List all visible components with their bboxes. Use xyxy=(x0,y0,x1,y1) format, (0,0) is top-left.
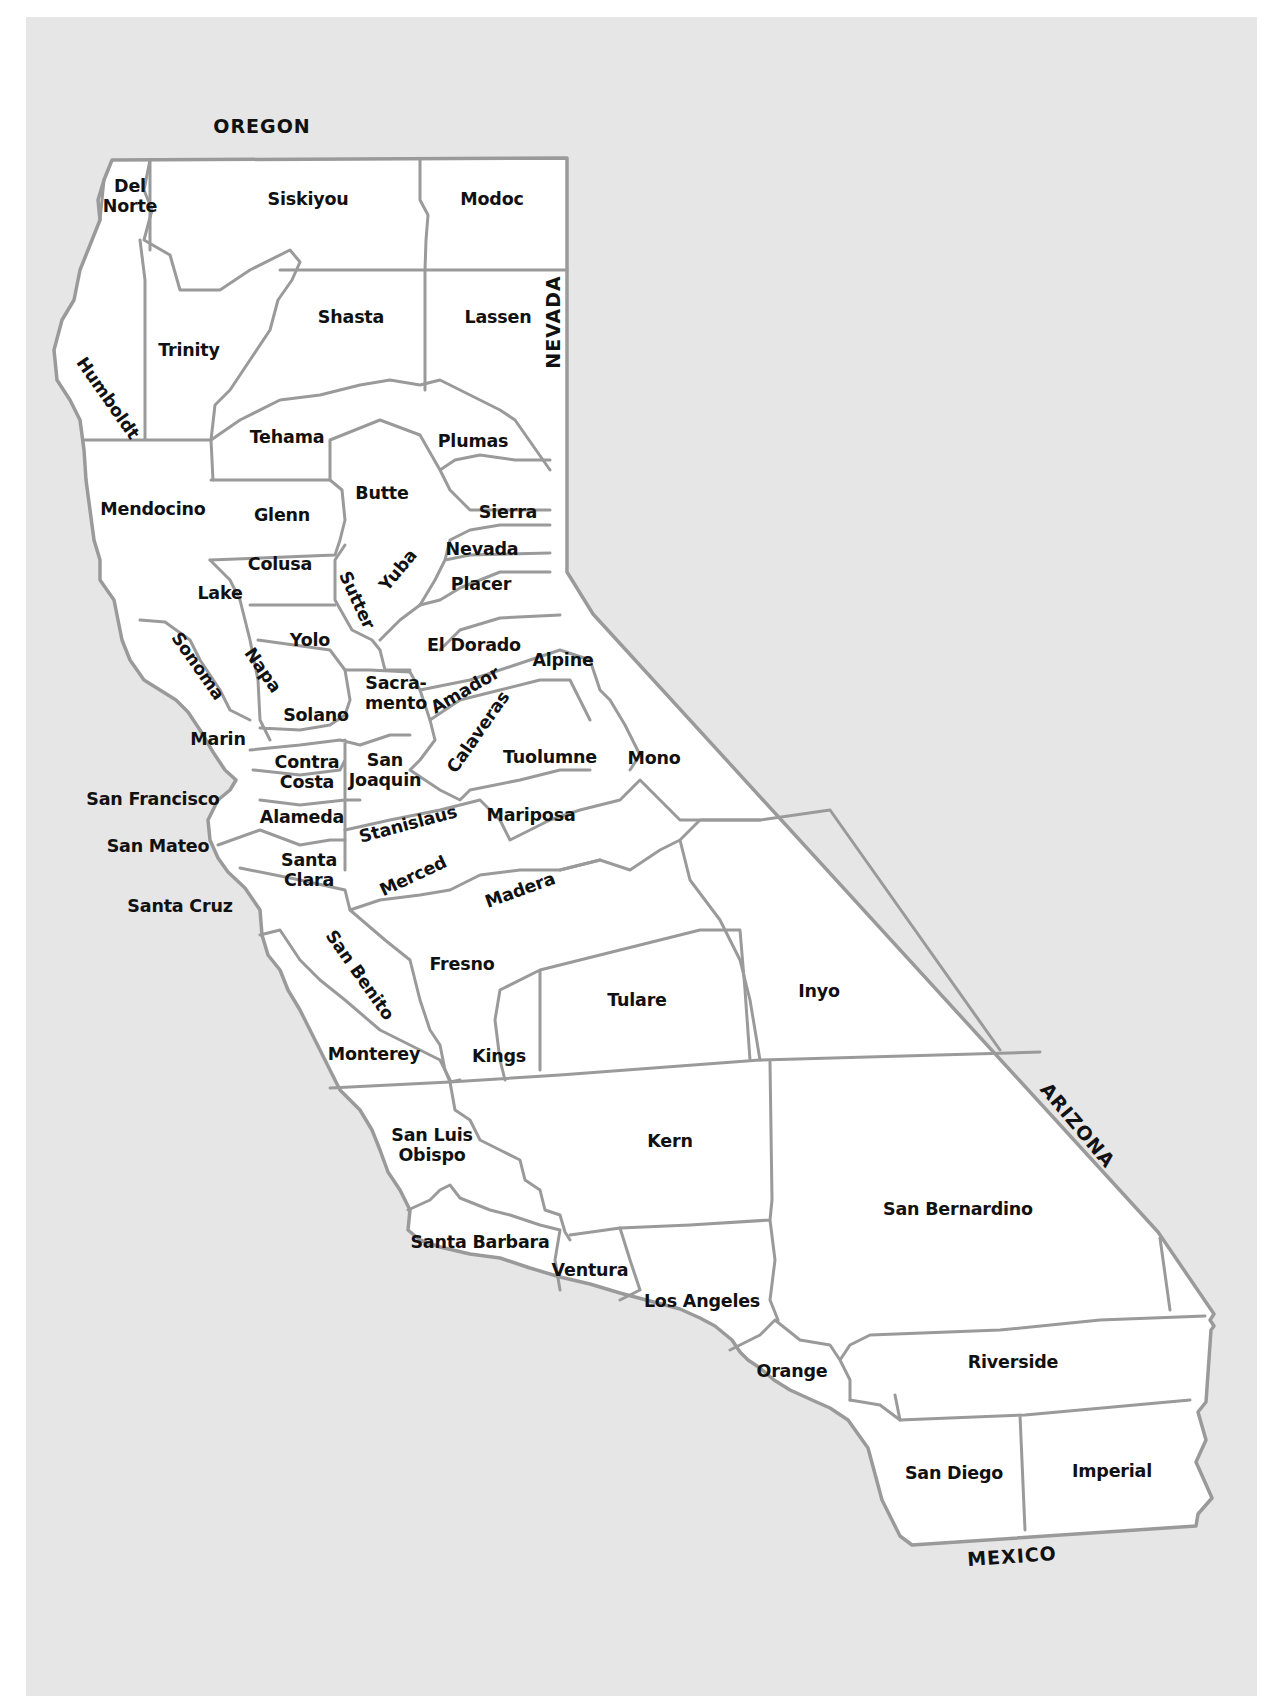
county-label-nevada[interactable]: Nevada xyxy=(446,539,519,559)
county-label-kings[interactable]: Kings xyxy=(472,1046,526,1066)
county-label-del-norte[interactable]: Del Norte xyxy=(103,176,158,216)
county-label-plumas[interactable]: Plumas xyxy=(438,431,509,451)
county-label-santa-barbara[interactable]: Santa Barbara xyxy=(410,1232,549,1252)
county-label-alameda[interactable]: Alameda xyxy=(260,807,344,827)
county-label-glenn[interactable]: Glenn xyxy=(254,505,310,525)
neighbor-label-oregon: OREGON xyxy=(213,115,310,137)
county-label-siskiyou[interactable]: Siskiyou xyxy=(268,189,349,209)
county-label-santa-clara[interactable]: Santa Clara xyxy=(281,850,337,890)
county-label-inyo[interactable]: Inyo xyxy=(798,981,840,1001)
county-label-colusa[interactable]: Colusa xyxy=(248,554,312,574)
county-label-el-dorado[interactable]: El Dorado xyxy=(427,635,521,655)
county-label-ventura[interactable]: Ventura xyxy=(552,1260,629,1280)
county-label-fresno[interactable]: Fresno xyxy=(429,954,494,974)
county-label-trinity[interactable]: Trinity xyxy=(158,340,219,360)
county-label-orange[interactable]: Orange xyxy=(757,1361,828,1381)
california-outline xyxy=(54,158,1214,1545)
county-label-riverside[interactable]: Riverside xyxy=(968,1352,1058,1372)
county-label-los-angeles[interactable]: Los Angeles xyxy=(644,1291,760,1311)
county-label-mariposa[interactable]: Mariposa xyxy=(486,805,575,825)
county-label-mendocino[interactable]: Mendocino xyxy=(100,499,205,519)
county-label-monterey[interactable]: Monterey xyxy=(328,1044,420,1064)
county-label-yolo[interactable]: Yolo xyxy=(290,630,330,650)
county-label-lake[interactable]: Lake xyxy=(197,583,242,603)
county-label-san-bernardino[interactable]: San Bernardino xyxy=(883,1199,1033,1219)
county-label-shasta[interactable]: Shasta xyxy=(318,307,384,327)
county-label-placer[interactable]: Placer xyxy=(451,574,511,594)
county-label-tulare[interactable]: Tulare xyxy=(607,990,667,1010)
county-label-tehama[interactable]: Tehama xyxy=(250,427,325,447)
county-label-sacra-mento[interactable]: Sacra- mento xyxy=(365,673,427,713)
county-label-butte[interactable]: Butte xyxy=(355,483,408,503)
county-label-santa-cruz[interactable]: Santa Cruz xyxy=(127,896,232,916)
county-label-sierra[interactable]: Sierra xyxy=(479,502,537,522)
county-label-san-luis-obispo[interactable]: San Luis Obispo xyxy=(391,1125,472,1165)
county-label-tuolumne[interactable]: Tuolumne xyxy=(503,747,597,767)
county-label-san-francisco[interactable]: San Francisco xyxy=(86,789,219,809)
county-label-marin[interactable]: Marin xyxy=(190,729,245,749)
county-label-san-diego[interactable]: San Diego xyxy=(905,1463,1003,1483)
county-label-kern[interactable]: Kern xyxy=(647,1131,692,1151)
neighbor-label-nevada: NEVADA xyxy=(542,275,564,368)
county-label-solano[interactable]: Solano xyxy=(283,705,349,725)
county-label-imperial[interactable]: Imperial xyxy=(1072,1461,1152,1481)
county-label-san-mateo[interactable]: San Mateo xyxy=(107,836,210,856)
county-label-alpine[interactable]: Alpine xyxy=(532,650,593,670)
county-label-lassen[interactable]: Lassen xyxy=(465,307,532,327)
county-label-modoc[interactable]: Modoc xyxy=(460,189,523,209)
county-label-san-joaquin[interactable]: San Joaquin xyxy=(349,750,421,790)
county-label-mono[interactable]: Mono xyxy=(627,748,680,768)
county-label-contra-costa[interactable]: Contra Costa xyxy=(275,752,340,792)
